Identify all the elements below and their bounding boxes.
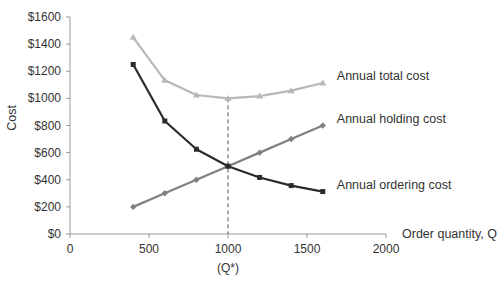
data-point-marker <box>162 190 168 196</box>
y-tick-label: $1000 <box>28 91 62 105</box>
data-point-marker <box>130 34 137 40</box>
x-axis-title: Order quantity, Q <box>402 227 497 241</box>
x-axis-ticks: 0500100015002000 <box>67 234 400 256</box>
y-tick-label: $200 <box>34 200 61 214</box>
data-point-marker <box>194 147 199 152</box>
series-annual-total-cost: Annual total cost <box>130 34 430 101</box>
eoq-cost-chart: $0$200$400$600$800$1000$1200$1400$1600 0… <box>0 0 502 281</box>
y-tick-label: $800 <box>34 119 61 133</box>
y-tick-label: $1200 <box>28 64 62 78</box>
data-point-marker <box>288 136 294 142</box>
x-tick-label: 1000 <box>215 242 242 256</box>
x-tick-label: 1500 <box>294 242 321 256</box>
y-tick-label: $1600 <box>28 10 62 24</box>
data-point-marker <box>256 149 262 155</box>
y-tick-label: $600 <box>34 146 61 160</box>
y-axis-ticks: $0$200$400$600$800$1000$1200$1400$1600 <box>28 10 70 241</box>
series-layer: Annual total costAnnual holding costAnnu… <box>130 34 452 210</box>
data-point-marker <box>257 175 262 180</box>
y-tick-label: $400 <box>34 173 61 187</box>
y-tick-label: $1400 <box>28 37 62 51</box>
data-point-marker <box>320 189 325 194</box>
x-tick-label: 2000 <box>373 242 400 256</box>
data-point-marker <box>289 183 294 188</box>
y-axis-title: Cost <box>5 105 19 131</box>
data-point-marker <box>193 177 199 183</box>
series-line <box>133 37 323 98</box>
x-tick-label: 0 <box>67 242 74 256</box>
series-annual-holding-cost: Annual holding cost <box>130 112 446 211</box>
data-point-marker <box>131 62 136 67</box>
optimal-quantity-label: (Q*) <box>217 261 239 275</box>
data-point-marker <box>320 122 326 128</box>
series-label: Annual ordering cost <box>337 178 452 192</box>
data-point-marker <box>226 164 231 169</box>
data-point-marker <box>130 204 136 210</box>
x-tick-label: 500 <box>139 242 159 256</box>
series-label: Annual holding cost <box>337 112 447 126</box>
data-point-marker <box>162 119 167 124</box>
y-tick-label: $0 <box>48 227 62 241</box>
series-label: Annual total cost <box>337 69 430 83</box>
